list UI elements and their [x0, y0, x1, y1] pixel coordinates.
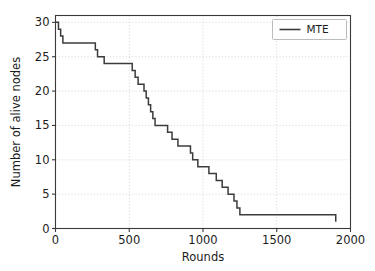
line-chart: 0500100015002000051015202530 Rounds Numb… — [0, 0, 375, 271]
y-tick-label: 30 — [35, 15, 50, 29]
plot-background — [0, 0, 375, 271]
x-tick-label: 500 — [118, 233, 140, 247]
x-tick-label: 1000 — [188, 233, 217, 247]
y-tick-label: 5 — [42, 187, 49, 201]
chart-figure: 0500100015002000051015202530 Rounds Numb… — [0, 0, 375, 271]
y-tick-label: 0 — [42, 222, 49, 236]
x-axis-title: Rounds — [182, 250, 224, 264]
y-tick-label: 15 — [35, 118, 50, 132]
y-axis-title: Number of alive nodes — [9, 57, 23, 187]
chart-legend: MTE — [273, 20, 347, 40]
x-tick-label: 1500 — [262, 233, 291, 247]
legend-label: MTE — [307, 23, 329, 35]
y-tick-label: 10 — [35, 153, 50, 167]
y-tick-label: 25 — [35, 50, 50, 64]
x-tick-label: 2000 — [336, 233, 365, 247]
y-tick-label: 20 — [35, 84, 50, 98]
x-tick-label: 0 — [52, 233, 59, 247]
